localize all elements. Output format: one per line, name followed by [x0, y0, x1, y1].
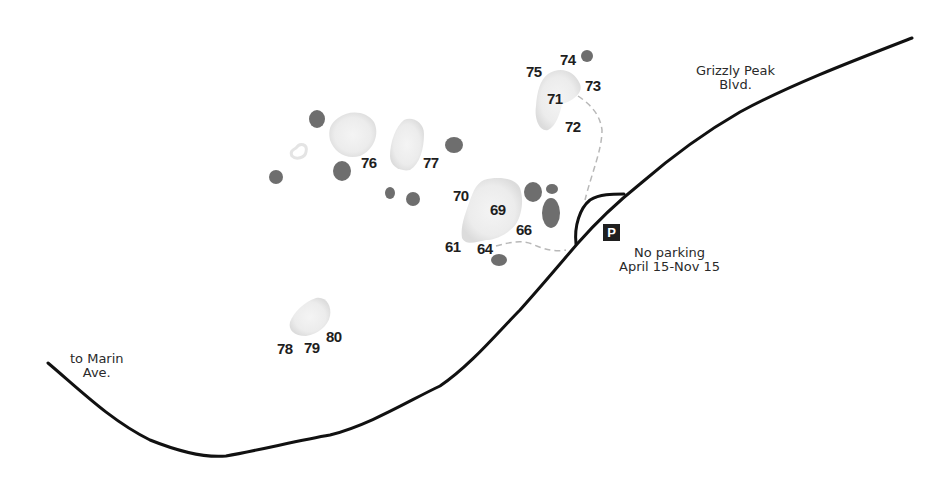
boulder-number-71[interactable]: 71 — [547, 91, 563, 106]
boulder-77[interactable] — [390, 119, 424, 171]
boulder-dark-g[interactable] — [524, 182, 542, 202]
boulder-number-77[interactable]: 77 — [423, 155, 439, 170]
boulder-74-dark[interactable] — [581, 50, 593, 62]
road-label-grizzly-peak: Grizzly Peak Blvd. — [696, 64, 775, 92]
boulder-dark-f[interactable] — [406, 192, 420, 206]
light-boulders — [290, 70, 581, 336]
boulder-dark-66[interactable] — [542, 198, 560, 228]
boulder-number-73[interactable]: 73 — [585, 78, 601, 93]
boulder-78-80[interactable] — [290, 298, 331, 336]
road-label-line2: Blvd. — [696, 78, 775, 92]
boulder-number-69[interactable]: 69 — [490, 202, 506, 217]
road-label-line2: Ave. — [70, 366, 124, 380]
boulder-dark-b[interactable] — [269, 170, 283, 184]
boulder-number-79[interactable]: 79 — [304, 340, 320, 355]
boulder-76[interactable] — [329, 112, 376, 157]
boulder-number-66[interactable]: 66 — [516, 222, 532, 237]
parking-icon: P — [603, 224, 620, 241]
boulder-dark-c[interactable] — [333, 161, 351, 181]
road-label-line1: to Marin — [70, 352, 124, 366]
trail-upper[interactable] — [578, 96, 602, 200]
boulder-number-61[interactable]: 61 — [445, 239, 461, 254]
road-label-marin-ave: to Marin Ave. — [70, 352, 124, 380]
boulder-dark-d[interactable] — [445, 137, 463, 153]
boulder-number-75[interactable]: 75 — [526, 64, 542, 79]
boulder-number-74[interactable]: 74 — [560, 52, 576, 67]
map-graphics — [0, 0, 942, 494]
boulder-number-80[interactable]: 80 — [326, 329, 342, 344]
boulder-number-78[interactable]: 78 — [277, 341, 293, 356]
boulder-small-ring[interactable] — [291, 145, 306, 159]
parking-note-line2: April 15-Nov 15 — [619, 260, 720, 274]
boulder-area-map: P Grizzly Peak Blvd. to Marin Ave. No pa… — [0, 0, 942, 494]
boulder-dark-a[interactable] — [309, 110, 325, 128]
boulder-number-64[interactable]: 64 — [477, 241, 493, 256]
boulder-number-72[interactable]: 72 — [565, 119, 581, 134]
boulder-number-70[interactable]: 70 — [453, 188, 469, 203]
boulder-number-76[interactable]: 76 — [361, 155, 377, 170]
boulder-dark-h[interactable] — [546, 184, 558, 194]
boulder-dark-e[interactable] — [385, 187, 395, 199]
road-label-line1: Grizzly Peak — [696, 64, 775, 78]
trail-lower[interactable] — [496, 242, 566, 251]
boulder-dark-64[interactable] — [491, 254, 507, 266]
parking-note: No parking April 15-Nov 15 — [619, 246, 720, 274]
parking-note-line1: No parking — [619, 246, 720, 260]
